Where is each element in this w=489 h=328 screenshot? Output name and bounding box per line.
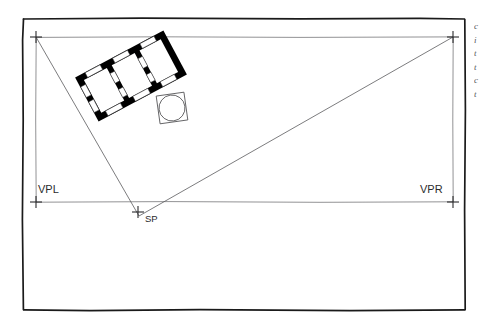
label-vpr: VPR bbox=[420, 183, 443, 195]
cross-marks bbox=[30, 31, 459, 218]
rotated-floor-plan bbox=[75, 30, 187, 121]
sight-lines bbox=[36, 37, 453, 216]
margin-text-line: t bbox=[474, 88, 489, 102]
margin-text-line: t bbox=[474, 47, 489, 61]
margin-text-line: c bbox=[474, 74, 489, 88]
object-circle bbox=[157, 93, 186, 122]
sight-line-right bbox=[139, 37, 453, 216]
horizon-line bbox=[36, 202, 453, 203]
margin-text-line: c bbox=[474, 20, 489, 34]
label-vpl: VPL bbox=[38, 183, 59, 195]
label-sp: SP bbox=[145, 213, 158, 224]
perspective-construction-drawing bbox=[0, 0, 489, 328]
vpl-vertical bbox=[36, 37, 37, 202]
circle-in-square-object bbox=[156, 92, 188, 124]
vpl-cross bbox=[30, 196, 42, 208]
margin-text-line: t bbox=[474, 61, 489, 75]
sheet-border bbox=[22, 18, 465, 310]
vpl-top-cross bbox=[30, 31, 42, 43]
picture-plane-line bbox=[36, 37, 453, 38]
object-square bbox=[156, 92, 188, 124]
vpr-cross bbox=[447, 196, 459, 208]
clipped-margin-text: c i t t c t bbox=[474, 20, 489, 104]
vpr-top-cross bbox=[447, 31, 459, 43]
sp-cross bbox=[132, 206, 144, 218]
margin-text-line: i bbox=[474, 34, 489, 48]
drawing-sheet: VPL VPR SP c i t t c t bbox=[0, 0, 489, 328]
